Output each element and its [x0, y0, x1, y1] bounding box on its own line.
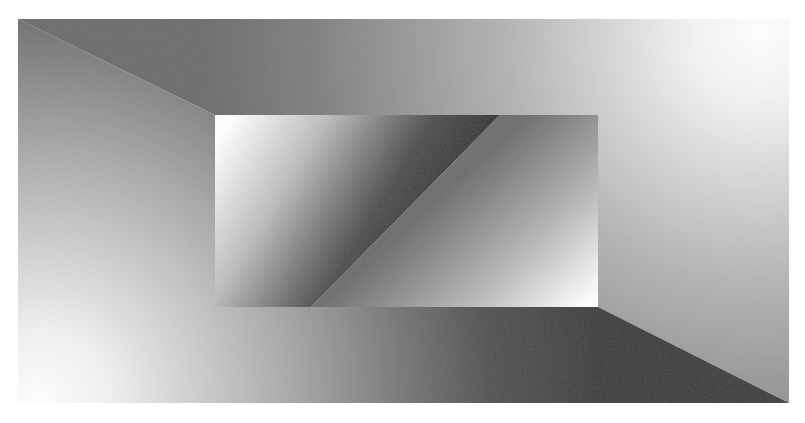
illusion-figure — [0, 0, 805, 423]
